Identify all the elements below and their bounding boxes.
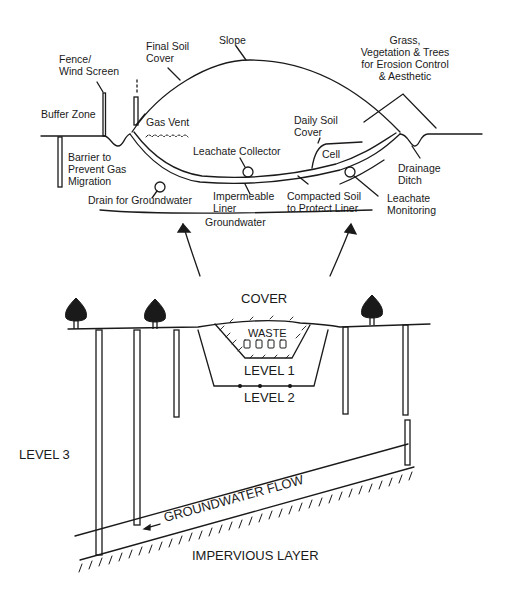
waste-drums [244, 340, 286, 348]
label-groundwater: Groundwater [205, 216, 266, 228]
tree-icon [144, 299, 165, 329]
label-daily-soil-cover: Daily Soil Cover [294, 114, 338, 138]
label-drain-for-groundwater: Drain for Groundwater [88, 194, 192, 206]
bottom-cross-section [68, 316, 430, 572]
gas-squiggles [146, 135, 188, 137]
label-line: Final Soil [146, 40, 189, 52]
label-compacted-soil: Compacted Soil to Protect Liner [287, 190, 361, 214]
label-line: Monitoring [387, 204, 436, 216]
barrier-post [58, 137, 62, 187]
label-impermeable-liner: Impermeable Liner [213, 190, 274, 214]
label-leachate-collector: Leachate Collector [193, 145, 281, 157]
label-line: Prevent Gas [68, 163, 126, 175]
impervious-line [80, 467, 414, 560]
label-waste: WASTE [248, 327, 287, 339]
label-line: Vegetation & Trees [355, 46, 455, 58]
label-line: Fence/ [59, 53, 119, 65]
label-line: Migration [68, 175, 126, 187]
label-drainage-ditch: Drainage Ditch [398, 162, 441, 186]
tree-icon [65, 298, 86, 329]
gas-vent-pipe [134, 97, 138, 125]
monitoring-well-2 [134, 330, 140, 525]
label-line: Impermeable [213, 190, 274, 202]
label-line: to Protect Liner [287, 202, 361, 214]
monitoring-well-1 [96, 330, 102, 555]
label-cover: COVER [241, 291, 287, 306]
label-level-1: LEVEL 1 [244, 363, 295, 378]
monitoring-well-3 [174, 330, 179, 417]
fence-post [103, 93, 106, 136]
label-line: Grass, [355, 34, 455, 46]
label-buffer-zone: Buffer Zone [41, 108, 96, 120]
label-level-2: LEVEL 2 [244, 390, 295, 405]
label-line: Cover [146, 52, 189, 64]
label-gas-vent: Gas Vent [146, 116, 189, 128]
monitoring-well-5 [403, 325, 408, 415]
monitoring-well-4 [343, 327, 348, 414]
label-line: Drainage [398, 162, 441, 174]
groundwater-drain [155, 182, 165, 192]
label-line: Barrier to [68, 151, 126, 163]
drainage-ditch [400, 134, 482, 146]
label-line: Leachate [387, 192, 436, 204]
buffer-ditch [104, 134, 130, 146]
label-line: & Aesthetic [355, 70, 455, 82]
label-impervious-layer: IMPERVIOUS LAYER [192, 548, 319, 563]
arrow-right [330, 226, 351, 276]
label-leachate-monitoring: Leachate Monitoring [387, 192, 436, 216]
leachate-collector [243, 167, 253, 177]
label-barrier: Barrier to Prevent Gas Migration [68, 151, 126, 187]
compacted-soil-line [340, 160, 384, 184]
label-cell: Cell [322, 148, 340, 160]
label-grass: Grass, Vegetation & Trees for Erosion Co… [355, 34, 455, 82]
label-fence: Fence/ Wind Screen [59, 53, 119, 77]
leachate-monitoring-point [345, 167, 355, 177]
label-line: Compacted Soil [287, 190, 361, 202]
label-line: Ditch [398, 174, 441, 186]
label-level-3: LEVEL 3 [19, 447, 70, 462]
label-final-soil-cover: Final Soil Cover [146, 40, 189, 64]
label-line: Wind Screen [59, 65, 119, 77]
label-line: Daily Soil [294, 114, 338, 126]
label-slope: Slope [219, 34, 246, 46]
label-line: Liner [213, 202, 274, 214]
label-line: for Erosion Control [355, 58, 455, 70]
label-line: Cover [294, 126, 338, 138]
tree-icon [361, 295, 382, 325]
monitoring-well-6 [405, 420, 410, 465]
